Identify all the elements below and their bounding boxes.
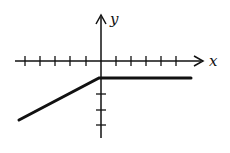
function-graph <box>19 78 191 120</box>
graph-figure: x y <box>0 0 230 153</box>
x-axis <box>15 56 203 66</box>
x-axis-label: x <box>209 52 218 70</box>
y-axis-label: y <box>109 10 119 28</box>
